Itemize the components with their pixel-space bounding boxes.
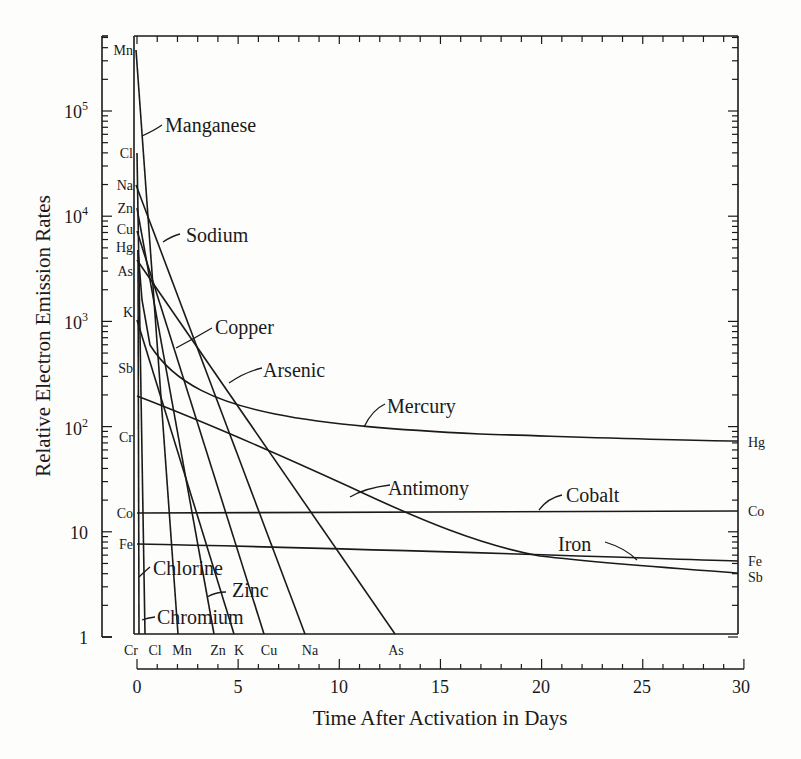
y-tick-1e4: 104 <box>64 204 88 227</box>
sym-left-na: Na <box>117 178 134 193</box>
sym-bottom-k: K <box>234 643 244 658</box>
bottom-symbol-labels: Cr Cl Mn Zn K Cu Na As <box>124 643 404 658</box>
top-axis-ticks <box>137 36 724 44</box>
sym-left-k: K <box>123 305 133 320</box>
x-tick-5: 5 <box>234 677 243 697</box>
right-axis-ticks <box>728 37 738 637</box>
sym-bottom-na: Na <box>302 643 319 658</box>
sym-right-fe: Fe <box>748 554 762 569</box>
y-tick-1: 1 <box>79 628 88 648</box>
y-tick-1e3: 103 <box>64 310 88 333</box>
x-tick-20: 20 <box>532 677 550 697</box>
label-copper: Copper <box>215 316 274 339</box>
y-tick-1e2: 102 <box>64 416 88 439</box>
sym-bottom-mn: Mn <box>172 643 191 658</box>
line-cobalt <box>137 511 738 513</box>
label-chromium: Chromium <box>157 606 244 628</box>
sym-right-sb: Sb <box>748 570 763 585</box>
y-axis-ticks <box>102 37 112 637</box>
y-axis <box>102 36 112 637</box>
label-zinc: Zinc <box>232 579 269 601</box>
series-lines <box>136 50 738 634</box>
y-tick-1e5: 105 <box>64 99 88 122</box>
label-chlorine: Chlorine <box>153 557 223 579</box>
sym-left-as: As <box>117 264 133 279</box>
sym-left-sb: Sb <box>118 361 133 376</box>
sym-bottom-zn: Zn <box>210 643 226 658</box>
sym-left-cu: Cu <box>117 222 133 237</box>
x-tick-25: 25 <box>633 677 651 697</box>
line-iron <box>137 544 738 561</box>
sym-left-hg: Hg <box>116 240 133 255</box>
label-antimony: Antimony <box>388 477 469 500</box>
label-mercury: Mercury <box>387 395 456 418</box>
sym-bottom-as: As <box>388 643 404 658</box>
right-symbol-labels: Hg Co Fe Sb <box>748 435 765 585</box>
sym-bottom-cl: Cl <box>148 643 161 658</box>
y-axis-title: Relative Electron Emission Rates <box>31 195 55 477</box>
label-cobalt: Cobalt <box>566 484 620 506</box>
x-tick-labels: 0 5 10 15 20 25 30 <box>133 677 751 697</box>
y-tick-labels: 105 104 103 102 10 1 <box>64 99 88 648</box>
sym-bottom-cu: Cu <box>261 643 277 658</box>
sym-left-cl: Cl <box>120 146 133 161</box>
sym-bottom-cr: Cr <box>124 643 138 658</box>
sym-left-co: Co <box>117 506 133 521</box>
label-arsenic: Arsenic <box>263 359 325 381</box>
x-tick-0: 0 <box>133 677 142 697</box>
sym-left-fe: Fe <box>119 537 133 552</box>
y-tick-10: 10 <box>70 523 88 543</box>
x-axis-ticks <box>137 659 744 669</box>
sym-left-mn: Mn <box>114 43 133 58</box>
line-potassium <box>137 320 234 634</box>
sym-left-zn: Zn <box>117 201 133 216</box>
sym-left-cr: Cr <box>119 430 133 445</box>
x-axis-title: Time After Activation in Days <box>313 706 568 730</box>
decay-chart: 105 104 103 102 10 1 0 5 10 15 20 25 30 … <box>0 0 801 759</box>
x-tick-30: 30 <box>732 677 750 697</box>
x-tick-10: 10 <box>330 677 348 697</box>
left-symbol-labels: Mn Cl Na Zn Cu Hg As K Sb Cr Co Fe <box>114 43 134 552</box>
sym-right-hg: Hg <box>748 435 765 450</box>
x-tick-15: 15 <box>431 677 449 697</box>
label-sodium: Sodium <box>186 224 249 246</box>
label-manganese: Manganese <box>165 114 256 137</box>
label-iron: Iron <box>558 533 591 555</box>
sym-right-co: Co <box>748 504 764 519</box>
